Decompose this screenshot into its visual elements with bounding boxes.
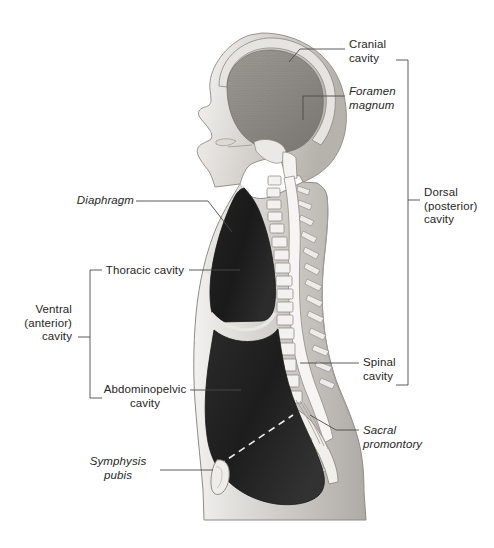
foramen-magnum-opening (283, 152, 297, 180)
ventral-bracket (78, 270, 102, 398)
label-abdominopelvic-cavity: Abdominopelvic cavity (99, 383, 191, 410)
label-spinal-cavity: Spinal cavity (363, 356, 396, 383)
label-foramen-magnum: Foramen magnum (349, 85, 396, 112)
label-sacral-promontory: Sacral promontory (363, 424, 422, 451)
label-thoracic-cavity: Thoracic cavity (96, 264, 184, 278)
label-cranial-cavity: Cranial cavity (349, 38, 386, 65)
label-diaphragm: Diaphragm (58, 194, 134, 208)
anatomy-figure-page: Cranial cavity Foramen magnum Dorsal (po… (0, 0, 494, 548)
label-dorsal-posterior-cavity: Dorsal (posterior) cavity (424, 186, 478, 227)
label-ventral-anterior-cavity: Ventral (anterior) cavity (4, 303, 72, 344)
head-group (197, 33, 346, 187)
dorsal-bracket (396, 60, 420, 385)
body-cavities-illustration (0, 0, 494, 548)
label-symphysis-pubis: Symphysis pubis (78, 455, 158, 482)
